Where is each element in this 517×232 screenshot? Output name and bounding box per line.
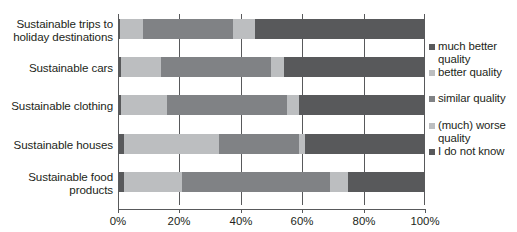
category-label: Sustainable houses — [14, 138, 113, 151]
bar-row — [118, 19, 425, 39]
bar-row — [118, 134, 425, 154]
bar-segment — [121, 57, 161, 77]
legend-item[interactable]: much better quality — [429, 40, 517, 65]
bar-segment — [330, 172, 348, 192]
bar-row — [118, 57, 425, 77]
legend-swatch-icon — [429, 96, 435, 102]
legend-swatch-icon — [429, 149, 435, 155]
bar-segment — [305, 134, 425, 154]
tick-mark — [118, 209, 119, 213]
legend-label: much better quality — [438, 40, 517, 65]
category-label: Sustainable trips to holiday destination… — [13, 17, 113, 44]
bar-segment — [161, 57, 272, 77]
category-axis-labels: Sustainable trips to holiday destination… — [0, 0, 113, 205]
tick-mark — [302, 209, 303, 213]
bar-segment — [255, 19, 425, 39]
category-label: Sustainable food products — [28, 170, 113, 197]
legend-item[interactable]: I do not know — [429, 145, 517, 158]
bar-segment — [287, 95, 299, 115]
bar-segment — [233, 19, 254, 39]
legend-label: better quality — [438, 66, 502, 79]
category-label: Sustainable clothing — [11, 99, 113, 112]
bar-segment — [219, 134, 299, 154]
x-tick-label: 0% — [110, 214, 126, 228]
bar-row — [118, 172, 425, 192]
bar-segment — [348, 172, 425, 192]
x-tick-label: 40% — [230, 214, 253, 228]
legend-label: I do not know — [438, 145, 504, 158]
bar-segment — [167, 95, 287, 115]
tick-mark — [241, 209, 242, 213]
legend-label: similar quality — [438, 92, 506, 105]
plot-area — [118, 14, 425, 205]
bar-segment — [143, 19, 234, 39]
bar-segment — [271, 57, 283, 77]
legend-label: (much) worse quality — [438, 119, 517, 144]
x-tick-label: 20% — [168, 214, 191, 228]
legend-swatch-icon — [429, 44, 435, 50]
legend-swatch-icon — [429, 70, 435, 76]
x-tick-label: 60% — [291, 214, 314, 228]
tick-mark — [425, 209, 426, 213]
category-label: Sustainable cars — [29, 61, 113, 74]
bar-segment — [284, 57, 425, 77]
tick-mark — [179, 209, 180, 213]
bar-segment — [124, 172, 182, 192]
legend-item[interactable]: better quality — [429, 66, 517, 79]
bar-segment — [121, 95, 167, 115]
bar-row — [118, 95, 425, 115]
bar-segment — [120, 19, 143, 39]
stacked-bar-chart: Sustainable trips to holiday destination… — [0, 0, 517, 232]
bar-segment — [299, 95, 425, 115]
legend-swatch-icon — [429, 123, 435, 129]
x-axis-line — [118, 209, 426, 210]
legend-item[interactable]: similar quality — [429, 92, 517, 105]
tick-mark — [364, 209, 365, 213]
x-tick-label: 100% — [410, 214, 439, 228]
bar-segment — [124, 134, 219, 154]
legend-item[interactable]: (much) worse quality — [429, 119, 517, 144]
x-tick-label: 80% — [353, 214, 376, 228]
bar-segment — [182, 172, 329, 192]
